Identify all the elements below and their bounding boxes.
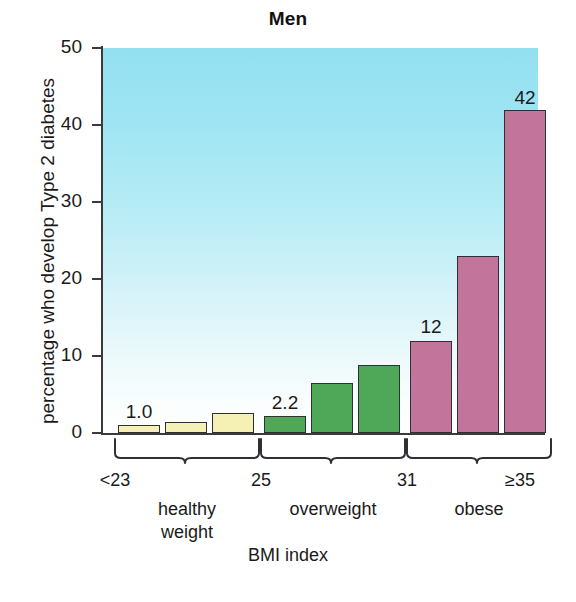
bar-value-label-obese-1: 12 [405, 316, 457, 338]
chart-title: Men [0, 8, 576, 30]
group-label-healthy-weight: healthy weight [127, 498, 247, 543]
y-tick-label-10: 10 [22, 344, 82, 366]
y-axis-title: percentage who develop Type 2 diabetes [37, 51, 59, 451]
group-label-overweight: overweight [273, 498, 393, 521]
group-brace-obese [405, 437, 553, 465]
x-tick-label-35-or-more: ≥35 [490, 470, 550, 491]
bar-healthy-3 [212, 413, 254, 433]
bar-obese-2 [457, 256, 499, 433]
group-label-obese-line1: obese [419, 498, 539, 521]
y-tick-label-30: 30 [22, 190, 82, 212]
x-axis-title: BMI index [0, 545, 576, 566]
bar-obese-1 [410, 341, 452, 433]
bar-healthy-2 [165, 422, 207, 433]
x-axis-line [101, 433, 545, 435]
y-tick-label-20: 20 [22, 267, 82, 289]
x-tick-label-under-23: <23 [85, 470, 145, 491]
y-tick-label-50: 50 [22, 36, 82, 58]
bar-overweight-3 [358, 365, 400, 433]
y-tick-mark-30 [92, 201, 102, 203]
y-tick-mark-40 [92, 124, 102, 126]
group-label-overweight-line1: overweight [273, 498, 393, 521]
bar-overweight-1 [264, 416, 306, 433]
x-tick-label-31: 31 [377, 470, 437, 491]
group-label-healthy-weight-line1: healthy [127, 498, 247, 521]
y-tick-label-0: 0 [22, 421, 82, 443]
y-tick-mark-10 [92, 355, 102, 357]
bar-value-label-overweight-1: 2.2 [259, 392, 311, 414]
group-brace-overweight [259, 437, 407, 465]
y-tick-mark-50 [92, 47, 102, 49]
bar-overweight-2 [311, 383, 353, 433]
y-tick-mark-20 [92, 278, 102, 280]
plot-area: 1.0 2.2 12 42 [103, 48, 538, 433]
group-brace-healthy-weight [113, 437, 261, 465]
bar-value-label-healthy-1: 1.0 [113, 401, 165, 423]
y-tick-mark-0 [92, 432, 102, 434]
group-label-healthy-weight-line2: weight [127, 521, 247, 544]
chart-figure: Men percentage who develop Type 2 diabet… [0, 0, 576, 602]
bar-value-label-obese-3: 42 [499, 87, 551, 109]
group-label-obese: obese [419, 498, 539, 521]
bar-obese-3 [504, 110, 546, 433]
bar-healthy-1 [118, 425, 160, 433]
x-tick-label-25: 25 [231, 470, 291, 491]
y-tick-label-40: 40 [22, 113, 82, 135]
y-axis-line [101, 46, 103, 435]
